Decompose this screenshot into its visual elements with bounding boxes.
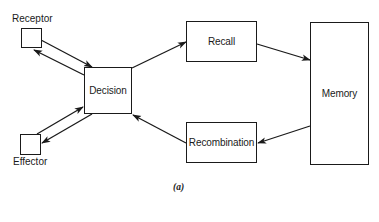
arrow-decision-to-receptor xyxy=(34,50,84,75)
recombination-box: Recombination xyxy=(186,122,257,163)
receptor-label: Receptor xyxy=(12,13,53,24)
effector-label: Effector xyxy=(13,156,47,167)
recombination-label: Recombination xyxy=(189,137,254,148)
effector-box xyxy=(20,134,41,155)
decision-label: Decision xyxy=(89,85,127,96)
memory-label: Memory xyxy=(322,88,358,99)
memory-box: Memory xyxy=(310,22,369,165)
arrow-recombination-to-decision xyxy=(133,115,186,143)
recall-box: Recall xyxy=(186,21,257,62)
receptor-box xyxy=(21,28,42,48)
arrow-effector-to-decision xyxy=(37,107,83,134)
arrow-decision-to-recall xyxy=(132,42,186,68)
recall-label: Recall xyxy=(208,36,235,47)
arrow-decision-to-effector xyxy=(42,114,92,143)
decision-box: Decision xyxy=(84,67,132,114)
arrow-memory-to-recombination xyxy=(258,126,310,143)
arrow-receptor-to-decision xyxy=(41,40,92,67)
arrow-recall-to-memory xyxy=(257,44,310,60)
diagram-canvas: Receptor Decision Effector Recall Memory… xyxy=(0,0,379,222)
figure-caption: (a) xyxy=(173,182,184,192)
